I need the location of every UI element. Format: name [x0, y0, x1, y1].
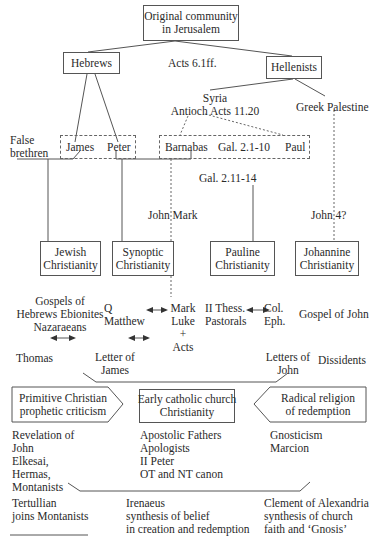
early-christianity-diagram: Original community in Jerusalem Hebrews … [0, 0, 376, 549]
node-jewish-christianity: Jewish Christianity [40, 241, 101, 276]
label-syria-antioch: Syria Antioch Acts 11.20 [160, 92, 270, 118]
node-synoptic-christianity: Synoptic Christianity [112, 241, 174, 276]
list-radical: Gnosticism Marcion [270, 429, 322, 455]
label-john-mark: John Mark [148, 209, 198, 222]
label-dissidents: Dissidents [318, 354, 366, 367]
label-radical-religion: Radical religion of redemption [272, 392, 364, 418]
label-col-eph: Col. Eph. [264, 302, 285, 328]
label-tertullian: Tertullian joins Montanists [12, 497, 88, 523]
node-early-catholic-church: Early catholic church Christianity [139, 389, 235, 423]
label-primitive-christian: Primitive Christian prophetic criticism [14, 392, 112, 418]
label-james: James [66, 141, 94, 154]
label-thess-pastorals: II Thess. Pastorals [205, 302, 247, 328]
label-greek-palestine: Greek Palestine [296, 101, 369, 114]
label-mark-luke-acts: Mark Luke + Acts [168, 302, 198, 354]
label-thomas: Thomas [16, 352, 53, 365]
label-clement: Clement of Alexandria synthesis of churc… [264, 497, 369, 536]
label-gal-2-11-14: Gal. 2.11-14 [199, 172, 256, 185]
label-paul: Paul [285, 141, 305, 154]
label-gospel-of-john: Gospel of John [299, 308, 369, 321]
node-original-community: Original community in Jerusalem [143, 5, 239, 41]
label-john-4: John 4? [311, 209, 346, 222]
label-peter: Peter [107, 141, 131, 154]
label-q-matthew: Q Matthew [104, 302, 145, 328]
node-hellenists: Hellenists [266, 56, 322, 79]
label-barnabas: Barnabas [165, 141, 208, 154]
node-johannine-christianity: Johannine Christianity [295, 241, 359, 276]
label-acts-6: Acts 6.1ff. [168, 57, 217, 70]
label-false-brethren: False brethren [10, 134, 48, 160]
list-primitive: Revelation of John Elkesai, Hermas, Mont… [12, 429, 74, 494]
label-letters-of-john: Letters of John [258, 351, 318, 377]
label-letter-of-james: Letter of James [80, 351, 150, 377]
node-hebrews: Hebrews [63, 52, 120, 74]
node-pauline-christianity: Pauline Christianity [210, 241, 275, 276]
label-gospels-of-hebrews: Gospels of Hebrews Ebionites Nazaraeans [8, 295, 112, 334]
list-catholic: Apostolic Fathers Apologists II Peter OT… [140, 429, 223, 481]
label-irenaeus: Irenaeus synthesis of belief in creation… [126, 497, 250, 536]
label-gal-2-1-10: Gal. 2.1-10 [218, 141, 270, 154]
